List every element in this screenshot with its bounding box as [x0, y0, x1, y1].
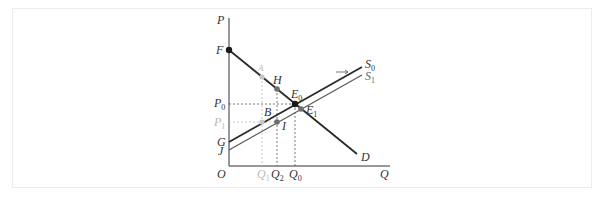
- label-b: B: [264, 105, 272, 119]
- label-p1: P1: [213, 115, 225, 131]
- shift-arrow-icon: [336, 70, 348, 74]
- supply-demand-diagram: P Q O F A H E0 E1 B I G J D S0 S1 P0 P1 …: [0, 0, 604, 198]
- label-a: A: [257, 63, 264, 73]
- point-b: [259, 119, 264, 124]
- point-a: [259, 74, 264, 79]
- point-e1: [298, 106, 304, 112]
- label-e0: E0: [290, 87, 302, 103]
- origin-label: O: [217, 167, 226, 181]
- point-h: [274, 86, 280, 92]
- label-f: F: [215, 43, 224, 57]
- point-f: [226, 47, 232, 53]
- p-axis-label: P: [216, 13, 225, 27]
- label-h: H: [272, 73, 283, 87]
- label-q1: Q1: [257, 167, 270, 183]
- label-e1: E1: [305, 103, 317, 119]
- label-p0: P0: [213, 96, 225, 112]
- label-q2: Q2: [271, 167, 284, 183]
- label-q0: Q0: [289, 167, 302, 183]
- point-i: [274, 119, 280, 125]
- label-j: J: [218, 144, 224, 158]
- label-d: D: [360, 150, 370, 164]
- q-axis-label: Q: [380, 167, 389, 181]
- point-e0: [292, 101, 298, 107]
- label-i: I: [281, 119, 287, 133]
